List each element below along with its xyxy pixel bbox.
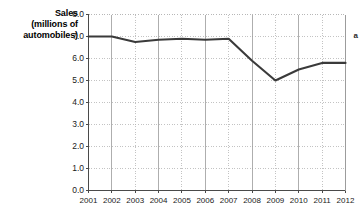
x-tick-label: 2012 (335, 196, 357, 205)
x-tick-label: 2003 (124, 196, 146, 205)
axis-lines (86, 15, 346, 194)
x-tick-label: 2002 (101, 196, 123, 205)
x-tick-label: 2007 (218, 196, 240, 205)
x-tick-label: 2005 (171, 196, 193, 205)
y-tick-label: 2.0 (62, 142, 84, 151)
x-tick-label: 2011 (311, 196, 333, 205)
x-tick-label: 2010 (288, 196, 310, 205)
y-tick-label: 7.0 (62, 32, 84, 41)
x-tick-label: 2006 (194, 196, 216, 205)
y-tick-label: 6.0 (62, 54, 84, 63)
plot-area (0, 0, 364, 211)
y-tick-label: 3.0 (62, 120, 84, 129)
x-tick-label: 2008 (241, 196, 263, 205)
x-tick-label: 2004 (148, 196, 170, 205)
y-tick-label: 5.0 (62, 76, 84, 85)
x-tick-label: 2001 (78, 196, 100, 205)
y-tick-label: 4.0 (62, 98, 84, 107)
y-tick-label: 8.0 (62, 10, 84, 19)
y-tick-label: 0.0 (62, 186, 84, 195)
x-tick-label: 2009 (264, 196, 286, 205)
y-tick-label: 1.0 (62, 164, 84, 173)
sales-line-chart: Sales (millions of automobiles) 8.07.06.… (0, 0, 364, 211)
right-margin-marker: a (354, 31, 358, 40)
